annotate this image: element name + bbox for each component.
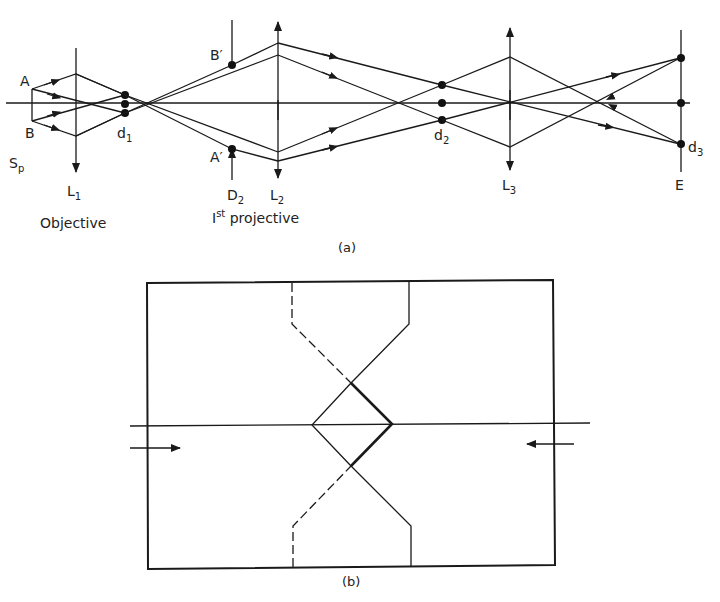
dashed-outline-bottom xyxy=(293,466,351,567)
label-l2: L2 xyxy=(270,187,284,206)
label-a: A xyxy=(20,73,30,89)
label-a-prime: A′ xyxy=(210,149,223,165)
label-d3: d3 xyxy=(688,139,703,158)
rays-after-l3 xyxy=(442,57,680,147)
label-objective: Objective xyxy=(40,215,106,231)
label-l3: L3 xyxy=(502,177,516,196)
label-b-prime: B′ xyxy=(210,47,223,63)
label-e: E xyxy=(675,177,684,193)
optics-diagram: A B Sp L1 d1 B′ A′ D2 L2 d2 L3 E d3 Obje… xyxy=(0,0,720,602)
rays-to-projective xyxy=(76,43,278,161)
label-b: B xyxy=(25,125,35,141)
rays-after-l2 xyxy=(278,43,442,161)
label-first-projective: Ist projective xyxy=(212,208,299,226)
solid-outline-top xyxy=(351,282,409,383)
figure-a: A B Sp L1 d1 B′ A′ D2 L2 d2 L3 E d3 Obje… xyxy=(6,20,703,255)
solid-outline-bottom xyxy=(351,466,411,566)
label-l1: L1 xyxy=(67,183,81,202)
axis-line-b xyxy=(130,423,590,426)
focal-plane-d2 xyxy=(438,81,446,124)
rays-objective xyxy=(32,74,125,136)
screen-e xyxy=(677,30,685,172)
dashed-outline-top xyxy=(292,283,351,383)
figure-b: (b) xyxy=(130,280,590,589)
label-d2-aperture: D2 xyxy=(227,187,244,206)
label-sp: Sp xyxy=(9,155,24,174)
caption-a: (a) xyxy=(338,240,356,255)
label-d1: d1 xyxy=(117,125,132,144)
aperture-d2 xyxy=(228,20,236,180)
caption-b: (b) xyxy=(342,574,360,589)
label-d2-focal: d2 xyxy=(434,127,449,146)
